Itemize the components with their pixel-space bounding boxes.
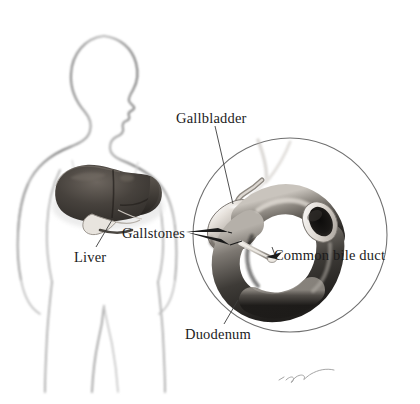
label-duodenum: Duodenum xyxy=(185,326,251,343)
illustration-artwork xyxy=(0,0,420,404)
gallstones-anatomical-illustration: Gallbladder Gallstones Common bile duct … xyxy=(0,0,420,404)
leader-gallbladder xyxy=(215,126,233,204)
figure-caption xyxy=(0,388,420,404)
inset-contents xyxy=(207,140,344,308)
label-common-bile-duct: Common bile duct xyxy=(274,247,385,264)
label-liver: Liver xyxy=(74,249,106,266)
label-gallstones: Gallstones xyxy=(122,225,185,242)
label-gallbladder: Gallbladder xyxy=(176,110,247,127)
artist-signature xyxy=(279,369,334,382)
